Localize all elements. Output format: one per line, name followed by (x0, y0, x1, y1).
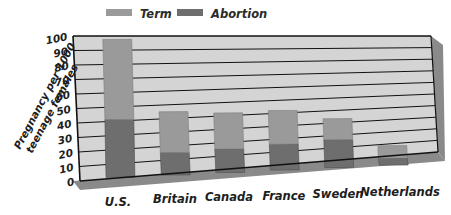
category-label-sweden: Sweden (313, 187, 364, 201)
bar-france-term[interactable] (268, 110, 298, 144)
bar-group-us[interactable] (103, 39, 135, 177)
legend-label-abortion: Abortion (210, 7, 267, 21)
legend-label-term: Term (140, 7, 172, 21)
legend-swatch-term (106, 9, 132, 16)
chart-legend: Term Abortion (106, 7, 267, 21)
category-label-britain: Britain (153, 192, 197, 206)
y-tick-40: 40 (55, 117, 73, 132)
bar-group-canada[interactable] (214, 113, 245, 173)
stacked-bar-chart: Term Abortion (0, 0, 451, 215)
bar-us-term[interactable] (103, 39, 134, 119)
x-category-labels: U.S. Britain Canada France Sweden Nether… (105, 185, 440, 209)
legend-swatch-abortion (177, 9, 203, 16)
y-tick-20: 20 (57, 146, 74, 161)
bar-france-abortion[interactable] (269, 144, 299, 170)
bar-canada-term[interactable] (214, 113, 244, 149)
bar-netherlands-abortion[interactable] (378, 158, 408, 165)
bar-britain-term[interactable] (159, 112, 189, 153)
category-label-france: France (263, 189, 306, 203)
bar-sweden-term[interactable] (323, 119, 353, 140)
category-label-netherlands: Netherlands (360, 185, 440, 199)
bar-group-france[interactable] (268, 110, 299, 170)
y-tick-0: 0 (66, 175, 76, 188)
category-label-canada: Canada (205, 190, 253, 204)
bar-sweden-abortion[interactable] (324, 140, 354, 168)
category-label-us: U.S. (105, 195, 131, 209)
bar-group-britain[interactable] (159, 112, 190, 176)
chart-figure: Term Abortion (0, 0, 451, 215)
y-tick-30: 30 (57, 132, 74, 147)
y-tick-10: 10 (58, 161, 75, 176)
bar-us-abortion[interactable] (105, 119, 135, 177)
